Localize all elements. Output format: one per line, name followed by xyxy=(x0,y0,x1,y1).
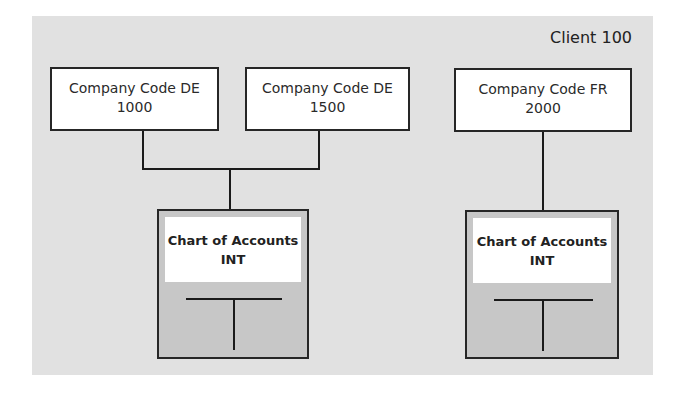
company-code-number: 2000 xyxy=(456,99,630,118)
company-code-de-1500: Company Code DE 1500 xyxy=(245,67,410,131)
client-label: Client 100 xyxy=(550,28,632,47)
company-code-de-1000: Company Code DE 1000 xyxy=(50,67,219,131)
company-code-number: 1000 xyxy=(52,98,217,117)
company-code-title: Company Code FR xyxy=(456,80,630,99)
connector-line xyxy=(542,132,544,211)
company-code-fr-2000: Company Code FR 2000 xyxy=(454,68,632,132)
company-code-title: Company Code DE xyxy=(52,79,217,98)
t-account-icon xyxy=(465,210,619,359)
connector-line xyxy=(229,168,231,210)
connector-line xyxy=(318,131,320,170)
connector-line xyxy=(142,131,144,170)
company-code-number: 1500 xyxy=(247,98,408,117)
connector-line xyxy=(142,168,320,170)
chart-of-accounts-box: Chart of Accounts INT xyxy=(157,209,309,359)
company-code-title: Company Code DE xyxy=(247,79,408,98)
chart-of-accounts-box: Chart of Accounts INT xyxy=(465,210,619,359)
t-account-icon xyxy=(157,209,309,359)
